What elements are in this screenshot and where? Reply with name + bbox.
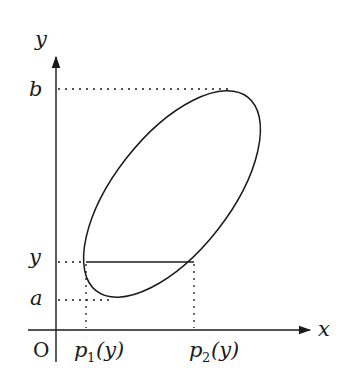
tick-label-b: b (29, 77, 42, 101)
region-diagram: y x O b y a p 1 (y) p 2 (y) (0, 0, 353, 377)
svg-text:(y): (y) (96, 338, 124, 362)
y-axis-label: y (34, 27, 48, 51)
tick-label-y: y (28, 245, 42, 269)
origin-label: O (33, 338, 49, 362)
svg-text:(y): (y) (211, 338, 239, 362)
svg-text:1: 1 (87, 350, 95, 365)
region-boundary (51, 61, 294, 326)
tick-label-a: a (30, 286, 43, 310)
svg-text:p: p (189, 338, 202, 362)
tick-label-p1: p 1 (y) (74, 338, 124, 365)
x-axis-label: x (318, 317, 330, 341)
svg-text:p: p (74, 338, 87, 362)
tick-label-p2: p 2 (y) (189, 338, 239, 365)
svg-text:2: 2 (202, 350, 210, 365)
